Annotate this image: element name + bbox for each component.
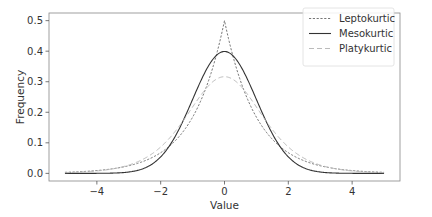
legend-label-platykurtic: Platykurtic bbox=[339, 43, 392, 54]
y-axis: 0.00.10.20.30.40.5 bbox=[27, 15, 49, 179]
y-tick-label: 0.5 bbox=[27, 15, 43, 26]
y-tick-label: 0.3 bbox=[27, 76, 43, 87]
x-tick-label: 0 bbox=[221, 186, 227, 197]
y-axis-label: Frequency bbox=[14, 70, 26, 124]
x-tick-label: −4 bbox=[89, 186, 104, 197]
x-axis-label: Value bbox=[210, 199, 239, 211]
y-tick-label: 0.2 bbox=[27, 107, 43, 118]
x-tick-label: −2 bbox=[153, 186, 168, 197]
y-tick-label: 0.1 bbox=[27, 137, 43, 148]
series-line-mesokurtic bbox=[65, 52, 384, 174]
kurtosis-line-chart: −4−2024 0.00.10.20.30.40.5 Value Frequen… bbox=[0, 0, 432, 217]
legend-label-mesokurtic: Mesokurtic bbox=[339, 28, 393, 39]
legend-label-leptokurtic: Leptokurtic bbox=[339, 13, 395, 24]
y-tick-label: 0.0 bbox=[27, 168, 43, 179]
y-tick-label: 0.4 bbox=[27, 46, 43, 57]
x-tick-label: 4 bbox=[349, 186, 355, 197]
legend: LeptokurticMesokurticPlatykurtic bbox=[303, 8, 395, 66]
x-axis: −4−2024 bbox=[89, 181, 355, 197]
x-tick-label: 2 bbox=[285, 186, 291, 197]
series-line-platykurtic bbox=[65, 77, 384, 173]
